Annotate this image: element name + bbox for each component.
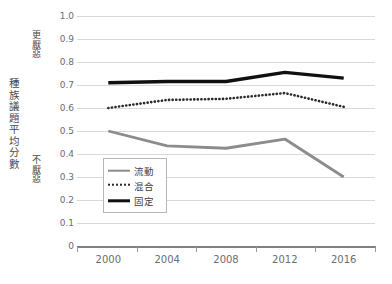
series-line-固定 [108,72,343,82]
legend-item-mixed[interactable]: 混合 [108,178,162,193]
x-axis-tickmark [196,247,197,252]
y-axis-tick-labels: 1.00.90.80.70.60.50.40.30.20.10 [50,16,74,246]
y-axis-tick-label: 0.9 [50,35,74,44]
x-axis-line [77,246,376,248]
y-axis-title: 種族議題平均分數 [8,78,19,170]
x-axis-tick-label: 2012 [272,254,297,265]
x-axis-tickmark [256,247,257,252]
y-axis-tick-label: 0.8 [50,58,74,67]
x-axis-tickmark [315,247,316,252]
chart-container: 種族議題平均分數 更厭惡 不厭惡 1.00.90.80.70.60.50.40.… [0,0,392,284]
y-axis-tick-label: 1.0 [50,12,74,21]
legend-item-fixed[interactable]: 固定 [108,193,162,208]
y-axis-tick-label: 0.5 [50,127,74,136]
y-axis-tick-label: 0.6 [50,104,74,113]
y-axis-tick-label: 0.4 [50,150,74,159]
legend-label-fixed: 固定 [134,194,155,208]
x-axis-tick-label: 2008 [213,254,238,265]
x-axis-tickmark [375,247,376,252]
y-axis-tick-label: 0.1 [50,219,74,228]
legend-swatch-fixed-icon [108,196,130,206]
x-axis-tickmark [137,247,138,252]
y-axis-tick-label: 0.7 [50,81,74,90]
legend-swatch-mixed-icon [108,181,130,191]
chart-legend: 流動 混合 固定 [103,158,167,213]
x-axis-tickmark [77,247,78,252]
y-axis-tick-label: 0.2 [50,196,74,205]
series-line-混合 [108,93,343,108]
x-axis-tick-label: 2016 [331,254,356,265]
legend-item-fluid[interactable]: 流動 [108,163,162,178]
x-axis-tick-labels: 20002004200820122016 [77,254,375,272]
legend-label-mixed: 混合 [134,179,155,193]
x-axis-tick-label: 2000 [96,254,121,265]
x-axis-tick-label: 2004 [154,254,179,265]
annotation-more-averse: 更厭惡 [31,30,40,59]
y-axis-tick-label: 0 [50,242,74,251]
legend-label-fluid: 流動 [134,164,155,178]
y-axis-tick-label: 0.3 [50,173,74,182]
legend-swatch-fluid-icon [108,166,130,176]
annotation-not-averse: 不厭惡 [31,155,40,184]
